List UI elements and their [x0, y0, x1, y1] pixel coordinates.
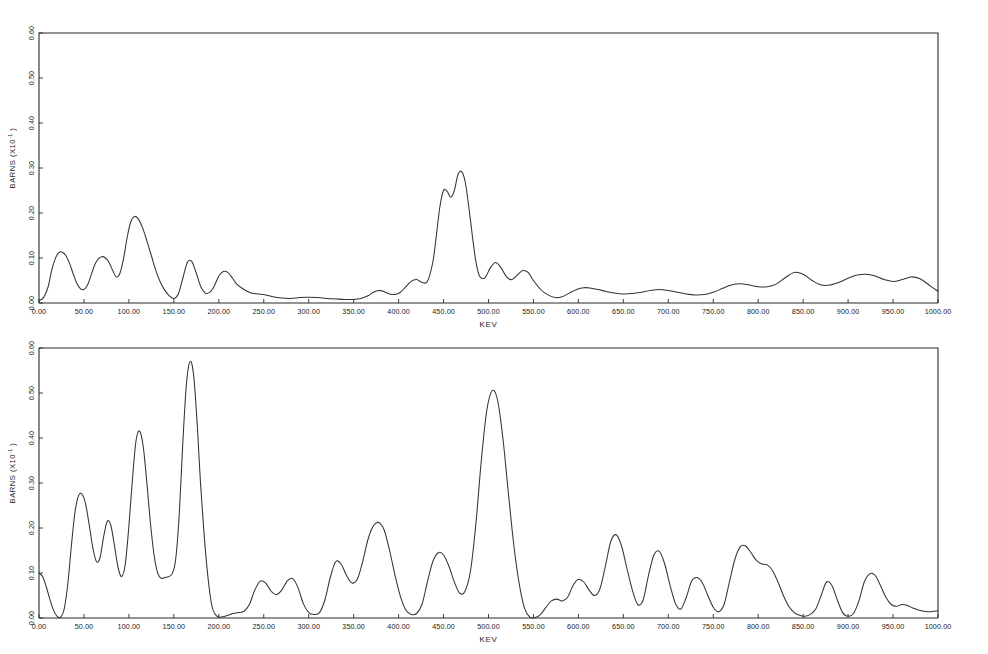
x-tick-label: 550.00: [522, 307, 545, 316]
x-tick-label: 700.00: [657, 307, 680, 316]
x-tick-label: 1000.00: [925, 622, 952, 631]
y-tick-label: 0.00: [27, 611, 36, 625]
spectrum-curve: [39, 361, 938, 618]
y-tick-label: 0.10: [27, 566, 36, 580]
x-tick-label: 900.00: [837, 307, 860, 316]
y-tick-label: 0.30: [27, 476, 36, 490]
y-tick-label: 0.60: [27, 26, 36, 40]
x-tick-label: 700.00: [657, 622, 680, 631]
y-tick-label: 0.30: [27, 161, 36, 175]
y-tick-label: 0.10: [27, 251, 36, 265]
chart-panel-bottom: 0.0050.00100.00150.00200.00250.00300.003…: [0, 334, 988, 654]
y-tick-label: 0.00: [27, 296, 36, 310]
x-tick-label: 800.00: [747, 622, 770, 631]
x-tick-label: 150.00: [163, 622, 186, 631]
x-tick-label: 450.00: [432, 622, 455, 631]
x-tick-label: 950.00: [882, 622, 905, 631]
x-tick-label: 150.00: [163, 307, 186, 316]
x-tick-label: 200.00: [208, 307, 231, 316]
y-tick-label: 0.50: [27, 71, 36, 85]
x-tick-label: 400.00: [387, 622, 410, 631]
y-tick-label: 0.40: [27, 431, 36, 445]
x-tick-label: 550.00: [522, 622, 545, 631]
x-tick-label: 850.00: [792, 307, 815, 316]
x-tick-label: 350.00: [342, 622, 365, 631]
x-tick-label: 600.00: [567, 622, 590, 631]
plot-frame: [39, 348, 938, 618]
x-tick-label: 50.00: [75, 622, 94, 631]
spectrum-figure: 0.0050.00100.00150.00200.00250.00300.003…: [0, 0, 988, 654]
x-tick-label: 250.00: [252, 622, 275, 631]
y-tick-label: 0.50: [27, 386, 36, 400]
x-tick-label: 250.00: [252, 307, 275, 316]
x-tick-label: 100.00: [118, 307, 141, 316]
x-tick-label: 100.00: [118, 622, 141, 631]
x-tick-label: 850.00: [792, 622, 815, 631]
y-tick-label: 0.60: [27, 341, 36, 355]
x-tick-label: 800.00: [747, 307, 770, 316]
y-tick-label: 0.20: [27, 521, 36, 535]
x-tick-label: 200.00: [208, 622, 231, 631]
x-tick-label: 400.00: [387, 307, 410, 316]
x-tick-label: 600.00: [567, 307, 590, 316]
x-tick-label: 950.00: [882, 307, 905, 316]
x-tick-label: 300.00: [297, 622, 320, 631]
top-chart-svg: 0.0050.00100.00150.00200.00250.00300.003…: [0, 0, 988, 340]
bottom-chart-svg: 0.0050.00100.00150.00200.00250.00300.003…: [0, 334, 988, 654]
x-tick-label: 1000.00: [925, 307, 952, 316]
y-axis-title: BARNS (X10-1 ): [7, 443, 17, 504]
x-tick-label: 900.00: [837, 622, 860, 631]
x-tick-label: 500.00: [477, 307, 500, 316]
figure-page: 0.0050.00100.00150.00200.00250.00300.003…: [0, 0, 988, 654]
x-tick-label: 650.00: [612, 622, 635, 631]
x-tick-label: 650.00: [612, 307, 635, 316]
y-tick-label: 0.40: [27, 116, 36, 130]
x-tick-label: 500.00: [477, 622, 500, 631]
y-axis-title: BARNS (X10-1 ): [7, 128, 17, 189]
chart-panel-top: 0.0050.00100.00150.00200.00250.00300.003…: [0, 0, 988, 340]
x-tick-label: 50.00: [75, 307, 94, 316]
x-tick-label: 350.00: [342, 307, 365, 316]
x-tick-label: 750.00: [702, 307, 725, 316]
y-tick-label: 0.20: [27, 206, 36, 220]
x-tick-label: 750.00: [702, 622, 725, 631]
x-tick-label: 300.00: [297, 307, 320, 316]
plot-frame: [39, 33, 938, 303]
spectrum-curve: [39, 171, 938, 301]
x-axis-title: KEV: [480, 320, 498, 329]
x-tick-label: 450.00: [432, 307, 455, 316]
x-axis-title: KEV: [480, 635, 498, 644]
